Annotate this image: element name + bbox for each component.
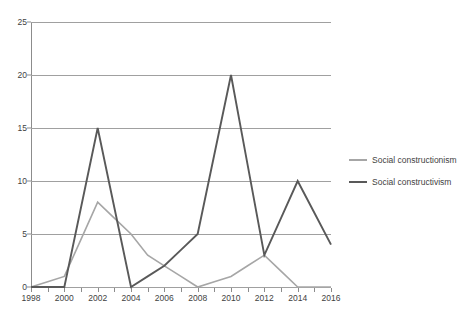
x-tick-mark [198,288,199,292]
x-tick-mark [64,288,65,292]
x-axis: 1998200020022004200620082010201220142016 [31,294,331,308]
series-line-0 [31,202,331,287]
x-tick-mark [331,288,332,292]
y-tick-label: 25 [18,18,27,27]
legend-line-icon [349,181,367,183]
x-tick-mark [281,288,282,292]
x-tick-mark [48,288,49,292]
x-axis-ticks [31,288,331,293]
x-tick-mark [98,288,99,292]
x-tick-label: 2006 [155,294,174,303]
x-tick-mark [181,288,182,292]
x-tick-mark [231,288,232,292]
x-tick-mark [214,288,215,292]
y-tick-label: 20 [18,71,27,80]
x-tick-mark [314,288,315,292]
plot-area [31,22,331,287]
x-tick-label: 2014 [288,294,307,303]
y-axis: 0510152025 [0,22,27,287]
x-tick-mark [81,288,82,292]
legend-entry[interactable]: Social constructivism [349,171,461,193]
x-tick-mark [31,288,32,292]
x-tick-label: 2010 [222,294,241,303]
legend-line-icon [349,159,367,161]
x-tick-label: 2012 [255,294,274,303]
x-tick-mark [298,288,299,292]
x-tick-label: 2000 [55,294,74,303]
x-tick-label: 2016 [322,294,341,303]
series-layer [31,22,331,287]
legend-entry[interactable]: Social constructionism [349,149,461,171]
chart-legend: Social constructionismSocial constructiv… [349,149,461,193]
x-tick-label: 2008 [188,294,207,303]
x-tick-label: 2002 [88,294,107,303]
x-tick-mark [264,288,265,292]
x-tick-label: 2004 [122,294,141,303]
x-tick-label: 1998 [22,294,41,303]
x-tick-mark [148,288,149,292]
x-tick-mark [164,288,165,292]
legend-label: Social constructionism [372,156,457,165]
line-chart: 0510152025 19982000200220042006200820102… [0,0,463,325]
y-tick-label: 15 [18,124,27,133]
series-line-1 [31,75,331,287]
y-tick-label: 10 [18,177,27,186]
legend-label: Social constructivism [372,178,451,187]
x-tick-mark [131,288,132,292]
x-tick-mark [114,288,115,292]
x-tick-mark [248,288,249,292]
